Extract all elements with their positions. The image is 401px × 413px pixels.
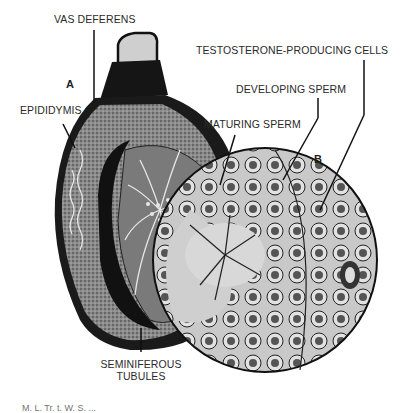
- label-seminiferous-tubules: SEMINIFEROUS TUBULES: [96, 358, 186, 382]
- panel-label-b: B: [314, 153, 322, 165]
- label-vas-deferens: VAS DEFERENS: [54, 13, 136, 25]
- panel-label-a: A: [66, 78, 74, 90]
- label-testosterone-producing-cells: TESTOSTERONE-PRODUCING CELLS: [196, 44, 388, 56]
- testis-illustration: [0, 0, 401, 413]
- figure-caption: M. L. Tr. t. W. S. ...: [22, 403, 96, 413]
- label-epididymis: EPIDIDYMIS: [20, 104, 82, 116]
- magnified-tubule-section: [153, 148, 377, 372]
- vas-deferens-shape: [100, 33, 168, 100]
- label-maturing-sperm: MATURING SPERM: [204, 118, 301, 130]
- testis-diagram: VAS DEFERENS A EPIDIDYMIS TESTOSTERONE-P…: [0, 0, 401, 413]
- label-developing-sperm: DEVELOPING SPERM: [236, 83, 346, 95]
